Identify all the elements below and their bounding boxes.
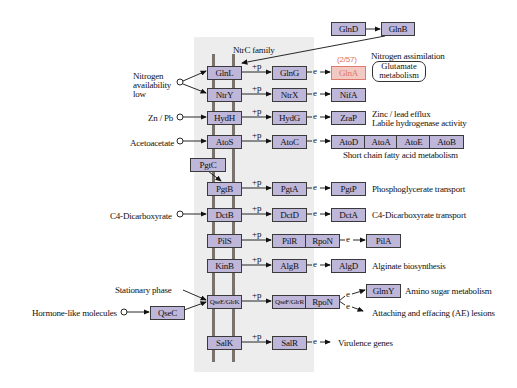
gene-box-atoc[interactable]: AtoC (272, 135, 307, 149)
e-label: e (313, 208, 317, 218)
gene-box-atob[interactable]: AtoB (429, 135, 464, 149)
ae-lesions-label: Attaching and effacing (AE) lesions (372, 308, 495, 318)
e-label: e (313, 336, 317, 346)
c4-dicarboxyrate-label: C4-Dicarboxyrate (110, 211, 172, 221)
pathway-diagram: NtrC family Nitrogen availability low Zn… (0, 0, 517, 388)
gene-box-atod[interactable]: AtoD (331, 135, 366, 149)
gene-box-hydh[interactable]: HydH (207, 111, 242, 125)
e-label: e (313, 111, 317, 121)
short-chain-label: Short chain fatty acid metabolism (343, 150, 458, 160)
e-label: e (346, 234, 350, 244)
gene-box-glnb[interactable]: GlnB (381, 22, 415, 36)
gene-box-dcta[interactable]: DctA (331, 208, 366, 222)
hydrogenase-label: Labile hydrogenase activity (372, 118, 467, 128)
gene-box-atoe[interactable]: AtoE (396, 135, 431, 149)
gene-box-glna[interactable]: GlnA (331, 66, 366, 80)
gene-box-glnd[interactable]: GlnD (331, 22, 366, 36)
gene-box-salr[interactable]: SalR (272, 336, 307, 350)
gene-box-atos[interactable]: AtoS (207, 135, 242, 149)
gene-box-glng[interactable]: GlnG (272, 66, 307, 80)
alginate-label: Alginate biosynthesis (372, 261, 446, 271)
gene-box-pgtc[interactable]: PgtC (190, 158, 226, 172)
zn-pb-label: Zn / Pb (148, 113, 173, 123)
plus-p: +p (252, 203, 261, 213)
gene-box-ntrx[interactable]: NtrX (272, 88, 307, 102)
gene-box-algb[interactable]: AlgB (272, 259, 307, 273)
gene-box-dctb[interactable]: DctB (207, 208, 242, 222)
gene-box-pgtp[interactable]: PgtP (331, 182, 366, 196)
stationary-phase-label: Stationary phase (115, 285, 172, 295)
phosphoglycerate-label: Phosphoglycerate transport (372, 184, 465, 194)
virulence-label: Virulence genes (338, 338, 393, 348)
e-label: e (313, 66, 317, 76)
plus-p: +p (252, 290, 261, 300)
nitrogen-low-label-3: low (133, 89, 146, 99)
e-label: e (313, 88, 317, 98)
e-label: e (313, 259, 317, 269)
gene-box-qsec[interactable]: QseC (150, 306, 185, 320)
plus-p: +p (252, 331, 261, 341)
gene-box-nifa[interactable]: NifA (331, 88, 366, 102)
plus-p: +p (252, 61, 261, 71)
gene-box-pila[interactable]: PilA (366, 234, 401, 248)
gene-box-rpon[interactable]: RpoN (305, 234, 340, 248)
c4-transport-label: C4-Dicarboxyrate transport (372, 210, 466, 220)
plus-p: +p (252, 83, 261, 93)
gene-box-qsee-glrk[interactable]: QseE/GlrK (207, 295, 242, 309)
plus-p: +p (252, 106, 261, 116)
e-label: e (346, 289, 350, 299)
gene-box-zrap[interactable]: ZraP (331, 111, 366, 125)
gene-box-pilr[interactable]: PilR (272, 234, 307, 248)
gene-box-pgtb[interactable]: PgtB (207, 182, 242, 196)
gene-box-rpon[interactable]: RpoN (305, 295, 340, 309)
gene-box-dctd[interactable]: DctD (272, 208, 307, 222)
plus-p: +p (252, 254, 261, 264)
amino-sugar-label: Amino sugar metabolism (405, 286, 492, 296)
gene-box-pgta[interactable]: PgtA (272, 182, 307, 196)
glutamate-metabolism-map[interactable]: Glutamate metabolism (372, 61, 426, 82)
acetoacetate-label: Acetoacetate (130, 138, 174, 148)
gene-box-glmy[interactable]: GlmY (366, 284, 401, 298)
hormone-like-label: Hormone-like molecules (32, 308, 117, 318)
gene-box-kinb[interactable]: KinB (207, 259, 242, 273)
glna-count: (2/57) (337, 55, 357, 65)
nitrogen-assimilation-label: Nitrogen assimilation (371, 51, 445, 61)
gene-box-pils[interactable]: PilS (207, 234, 242, 248)
gene-box-ntry[interactable]: NtrY (207, 88, 242, 102)
plus-p: +p (252, 130, 261, 140)
plus-p: +p (252, 177, 261, 187)
gene-box-salk[interactable]: SalK (207, 336, 242, 350)
gene-box-atoa[interactable]: AtoA (364, 135, 398, 149)
e-label: e (313, 182, 317, 192)
family-label: NtrC family (233, 45, 275, 55)
gene-box-hydg[interactable]: HydG (272, 111, 307, 125)
gene-box-glnl[interactable]: GlnL (207, 66, 242, 80)
e-label: e (346, 301, 350, 311)
gene-box-qsef-glrr[interactable]: QseF/GlrR (272, 295, 307, 309)
plus-p: +p (252, 229, 261, 239)
gene-box-algd[interactable]: AlgD (331, 259, 366, 273)
e-label: e (313, 135, 317, 145)
